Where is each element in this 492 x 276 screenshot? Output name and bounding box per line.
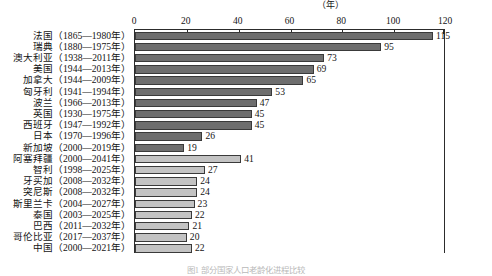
chart-row: 中国（2000—2021年）22 (0, 242, 492, 254)
bar (135, 233, 187, 241)
x-axis-tick-label: 20 (181, 16, 191, 27)
bar (135, 177, 197, 185)
bar-track: 22 (134, 242, 445, 254)
bar (135, 88, 272, 96)
bar (135, 32, 433, 40)
figure-caption: 图1 部分国家人口老龄化进程比较 (0, 266, 492, 276)
bar (135, 76, 303, 84)
x-axis-tick-label: 60 (285, 16, 295, 27)
bar (135, 99, 257, 107)
x-axis-tick-label: 0 (132, 16, 137, 27)
bar (135, 110, 252, 118)
bar (135, 121, 252, 129)
x-axis-tick-label: 80 (337, 16, 347, 27)
x-axis-tick-label: 120 (438, 16, 452, 27)
bar (135, 155, 241, 163)
x-axis-tick-label: 100 (386, 16, 400, 27)
bar (135, 222, 189, 230)
category-label: 中国（2000—2021年） (33, 242, 131, 254)
bar (135, 132, 202, 140)
bar (135, 211, 192, 219)
bar (135, 200, 195, 208)
x-axis-tick-label: 40 (233, 16, 243, 27)
bar (135, 244, 192, 252)
bar (135, 144, 184, 152)
bar-rows: 法国（1865—1980年）115瑞典（1880—1975年）95澳大利亚（19… (0, 29, 492, 253)
x-axis-unit-label: （年） (317, 0, 344, 11)
x-axis-labels: 020406080100120 (134, 16, 445, 30)
bar (135, 65, 314, 73)
bar (135, 188, 197, 196)
bar (135, 54, 324, 62)
bar (135, 43, 381, 51)
bar-value-label: 22 (195, 242, 205, 254)
bar (135, 166, 205, 174)
